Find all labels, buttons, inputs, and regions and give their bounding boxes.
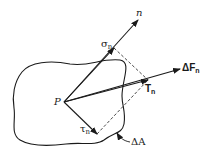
dashed-sigma-to-T xyxy=(114,48,148,80)
label-area: ΔA xyxy=(131,137,145,147)
stress-diagram: n σn ΔFn Tn P τn ΔA xyxy=(0,0,208,150)
body-outline xyxy=(13,60,126,145)
label-force: ΔFn xyxy=(182,63,200,76)
label-sigma-n: σn xyxy=(101,39,112,52)
label-point-p: P xyxy=(54,97,61,107)
diagram-svg xyxy=(0,0,208,150)
traction-arrow xyxy=(64,80,148,102)
area-leader xyxy=(117,133,130,142)
sigma-arrow xyxy=(64,48,114,102)
label-normal: n xyxy=(136,8,142,18)
label-traction: Tn xyxy=(145,84,155,97)
label-tau-n: τn xyxy=(80,124,90,137)
